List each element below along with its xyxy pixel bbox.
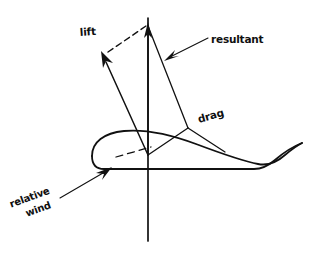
lift-label: lift: [79, 25, 96, 38]
diagram-canvas: lift resultant drag relative wind: [0, 0, 313, 254]
drag-label: drag: [196, 106, 225, 125]
resultant-label-leader-line: [172, 38, 208, 56]
airfoil-force-diagram: lift resultant drag relative wind: [0, 0, 313, 254]
airfoil-section: [92, 131, 302, 169]
parallelogram-dashed-side-top: [108, 26, 146, 52]
airfoil-upper-surface: [92, 131, 302, 165]
resultant-label-arrowhead: [164, 50, 179, 61]
airfoil-lower-surface: [92, 143, 302, 169]
resultant-label: resultant: [211, 33, 264, 45]
relative-wind-label: relative wind: [8, 185, 56, 223]
parallelogram-side-right: [148, 26, 188, 128]
lift-vector-shaft: [106, 62, 148, 155]
relative-wind-leader-line: [60, 173, 103, 198]
